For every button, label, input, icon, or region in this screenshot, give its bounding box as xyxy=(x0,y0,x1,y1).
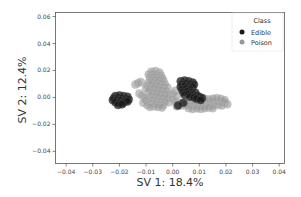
y-tick-label: 0.04 xyxy=(37,40,51,47)
y-tick-label: 0.02 xyxy=(37,66,51,73)
legend-marker-edible xyxy=(240,30,245,35)
x-tick-label: −0.03 xyxy=(84,168,103,175)
legend: Class Edible Poison xyxy=(232,13,283,51)
x-axis-label: SV 1: 18.4% xyxy=(136,176,203,189)
x-tick-label: −0.02 xyxy=(110,168,129,175)
x-tick-label: 0.03 xyxy=(246,168,260,175)
legend-label-poison: Poison xyxy=(251,39,272,47)
x-tick-label: −0.04 xyxy=(57,168,76,175)
data-point-edible xyxy=(174,102,182,110)
x-axis-ticks: −0.04−0.03−0.02−0.010.000.010.020.030.04 xyxy=(57,164,286,175)
data-point-poison xyxy=(137,78,145,86)
y-axis-label: SV 2: 12.4% xyxy=(16,56,29,123)
legend-title: Class xyxy=(253,17,271,25)
y-tick-label: 0.06 xyxy=(37,13,51,20)
x-tick-label: 0.02 xyxy=(219,168,233,175)
y-tick-label: −0.04 xyxy=(32,147,51,154)
data-point-poison xyxy=(158,104,166,112)
y-tick-label: 0.00 xyxy=(37,93,51,100)
data-point-poison xyxy=(209,104,217,112)
data-points xyxy=(109,67,232,113)
data-point-edible xyxy=(118,100,126,108)
x-tick-label: −0.01 xyxy=(137,168,156,175)
data-point-edible xyxy=(197,96,205,104)
scatter-chart: −0.04−0.03−0.02−0.010.000.010.020.030.04… xyxy=(0,0,301,197)
legend-label-edible: Edible xyxy=(251,29,271,37)
y-tick-label: −0.02 xyxy=(32,120,51,127)
x-tick-label: 0.00 xyxy=(166,168,180,175)
data-point-poison xyxy=(146,103,154,111)
data-point-poison xyxy=(221,96,229,104)
legend-marker-poison xyxy=(240,40,245,45)
x-tick-label: 0.04 xyxy=(272,168,286,175)
x-tick-label: 0.01 xyxy=(193,168,207,175)
y-axis-ticks: 0.060.040.020.00−0.02−0.04 xyxy=(32,13,55,155)
